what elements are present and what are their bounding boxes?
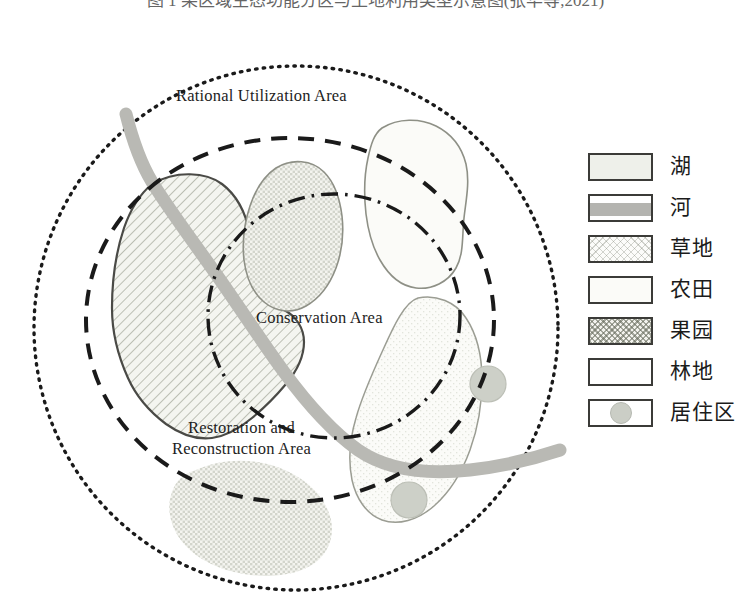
legend-swatch-lake	[588, 153, 653, 181]
legend-label-lake: 湖	[670, 156, 692, 177]
legend-item-river: 河	[588, 187, 748, 228]
feature-orchard-center	[243, 162, 343, 311]
legend-label-farmland: 农田	[670, 279, 714, 300]
feature-orchard-south	[169, 461, 332, 576]
map-canvas: Rational Utilization Area Conservation A…	[0, 8, 590, 607]
legend-item-grassland: 草地	[588, 228, 748, 269]
feature-farmland-northeast	[365, 120, 468, 288]
legend-item-orchard: 果园	[588, 310, 748, 351]
zone-label-restoration-line2: Reconstruction Area	[172, 438, 311, 459]
legend-swatch-woodland	[588, 358, 653, 386]
legend-label-woodland: 林地	[670, 361, 714, 382]
legend-label-river: 河	[670, 197, 692, 218]
legend-item-lake: 湖	[588, 146, 748, 187]
zone-label-restoration-line1: Restoration and	[172, 417, 311, 438]
legend-item-farmland: 农田	[588, 269, 748, 310]
legend-label-grassland: 草地	[670, 238, 714, 259]
legend-item-residential: 居住区	[588, 392, 748, 433]
legend-swatch-orchard	[588, 317, 653, 345]
zone-label-rational-utilization: Rational Utilization Area	[176, 86, 347, 106]
legend-label-orchard: 果园	[670, 320, 714, 341]
legend-swatch-river	[588, 194, 653, 222]
legend: 湖 河 草地 农田 果园 林地 居住区	[588, 146, 748, 433]
feature-residential-north	[470, 366, 506, 402]
land-features	[112, 114, 560, 576]
legend-swatch-grassland	[588, 235, 653, 263]
figure-root: 图 1 某区域生态功能分区与土地利用类型示意图(张华等,2021)	[0, 0, 751, 607]
feature-residential-south	[391, 482, 427, 518]
zone-label-restoration-reconstruction: Restoration and Reconstruction Area	[172, 417, 311, 459]
zone-label-conservation: Conservation Area	[256, 308, 383, 328]
legend-swatch-residential	[588, 399, 653, 427]
residential-dot-icon	[610, 402, 632, 424]
legend-item-woodland: 林地	[588, 351, 748, 392]
legend-label-residential: 居住区	[670, 402, 736, 423]
legend-swatch-farmland	[588, 276, 653, 304]
